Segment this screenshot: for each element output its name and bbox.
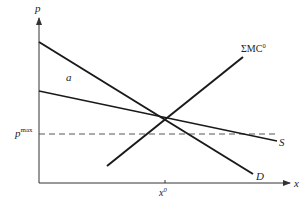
diagram-canvas: p x pmax D S ΣMC0 a x0 bbox=[0, 0, 302, 212]
supply-curve bbox=[39, 91, 277, 141]
region-a-label: a bbox=[66, 71, 72, 83]
supply-label: S bbox=[279, 136, 285, 148]
marginal-cost-label: ΣMC0 bbox=[241, 42, 266, 54]
price-ceiling-label: pmax bbox=[14, 126, 33, 139]
x0-label: x0 bbox=[158, 186, 167, 198]
x-axis-label: x bbox=[293, 177, 299, 189]
demand-curve bbox=[39, 42, 253, 174]
demand-label: D bbox=[255, 170, 264, 182]
marginal-cost-curve bbox=[107, 57, 243, 166]
y-axis-label: p bbox=[34, 2, 41, 14]
